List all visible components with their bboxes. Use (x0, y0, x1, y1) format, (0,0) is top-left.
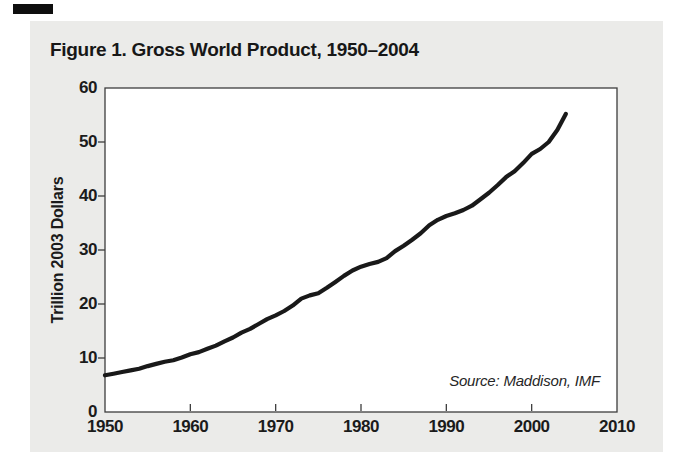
line-chart (0, 0, 674, 475)
source-note: Source: Maddison, IMF (449, 372, 600, 389)
plot-frame (105, 88, 617, 412)
x-tick-label: 1970 (244, 417, 308, 437)
y-tick-label: 60 (53, 78, 97, 98)
y-tick-label: 10 (53, 348, 97, 368)
x-tick-label: 2010 (585, 417, 649, 437)
x-tick-label: 1990 (414, 417, 478, 437)
x-tick-label: 1980 (329, 417, 393, 437)
x-tick-label: 2000 (500, 417, 564, 437)
x-tick-label: 1960 (158, 417, 222, 437)
x-tick-label: 1950 (73, 417, 137, 437)
y-tick-label: 50 (53, 132, 97, 152)
y-axis-title: Trillion 2003 Dollars (49, 177, 67, 324)
